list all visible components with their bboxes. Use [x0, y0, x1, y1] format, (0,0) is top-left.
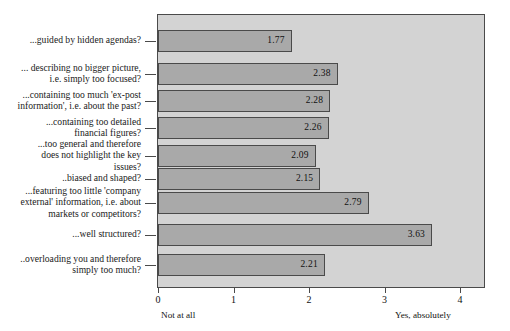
bar: 2.21 — [158, 254, 325, 276]
bar-row: 2.21 — [158, 254, 325, 276]
bar: 1.77 — [158, 30, 292, 52]
category-label: ...containing too detailed financial fig… — [0, 116, 141, 139]
bar-value-label: 2.21 — [300, 260, 317, 270]
bar-value-label: 2.28 — [306, 96, 323, 106]
category-label: ...containing too much 'ex-post informat… — [0, 89, 141, 112]
category-label: ...too general and therefore does not hi… — [0, 138, 141, 173]
x-axis-tick-label: 4 — [445, 294, 475, 306]
category-tick-mark — [145, 203, 156, 204]
axis-end-label-right: Yes, absolutely — [395, 310, 451, 321]
category-tick-mark — [145, 265, 156, 266]
bar: 2.79 — [158, 192, 369, 214]
category-label: ... describing no bigger picture, i.e. s… — [0, 62, 141, 85]
bar-chart: 1.772.382.282.262.092.152.793.632.21 ...… — [0, 0, 510, 331]
bar-row: 2.09 — [158, 145, 316, 167]
category-label: ...guided by hidden agendas? — [0, 34, 141, 46]
category-tick-mark — [145, 128, 156, 129]
category-tick-mark — [145, 235, 156, 236]
bar-value-label: 2.15 — [296, 174, 313, 184]
bar-row: 3.63 — [158, 224, 432, 246]
x-axis-tick-label: 1 — [219, 294, 249, 306]
bar-row: 1.77 — [158, 30, 292, 52]
x-axis-tick — [158, 288, 159, 293]
category-label: ..overloading you and therefore simply t… — [0, 253, 141, 276]
bar: 2.09 — [158, 145, 316, 167]
bar: 2.15 — [158, 168, 320, 190]
bar: 2.28 — [158, 90, 330, 112]
bar-row: 2.15 — [158, 168, 320, 190]
bar-value-label: 3.63 — [408, 230, 425, 240]
x-axis-tick — [460, 288, 461, 293]
axis-end-label-left: Not at all — [161, 310, 195, 321]
x-axis-tick — [385, 288, 386, 293]
bar-row: 2.79 — [158, 192, 369, 214]
bar-row: 2.26 — [158, 117, 329, 139]
category-tick-mark — [145, 41, 156, 42]
category-label: ...well structured? — [0, 228, 141, 240]
x-axis-tick-label: 2 — [294, 294, 324, 306]
category-tick-mark — [145, 101, 156, 102]
bar: 2.38 — [158, 63, 338, 85]
category-label: ..biased and shaped? — [0, 172, 141, 184]
bar-value-label: 2.79 — [344, 198, 361, 208]
bar-value-label: 2.26 — [304, 123, 321, 133]
bar: 3.63 — [158, 224, 432, 246]
category-tick-mark — [145, 179, 156, 180]
bar-row: 2.28 — [158, 90, 330, 112]
bar: 2.26 — [158, 117, 329, 139]
category-tick-mark — [145, 156, 156, 157]
x-axis-tick — [234, 288, 235, 293]
bar-value-label: 2.38 — [313, 69, 330, 79]
category-tick-mark — [145, 74, 156, 75]
x-axis-tick-label: 0 — [143, 294, 173, 306]
bar-row: 2.38 — [158, 63, 338, 85]
bar-value-label: 2.09 — [291, 151, 308, 161]
x-axis-tick — [309, 288, 310, 293]
category-label: ...featuring too little 'company externa… — [0, 185, 141, 220]
bar-value-label: 1.77 — [267, 36, 284, 46]
x-axis-tick-label: 3 — [370, 294, 400, 306]
